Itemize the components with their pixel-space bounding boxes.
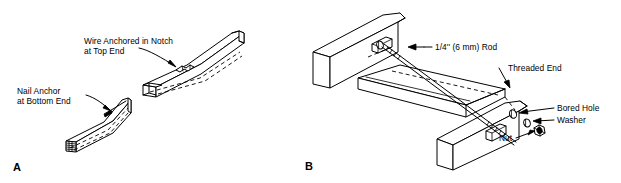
panel-b-drawing: 1/4'' (6 mm) Rod Threaded End Bored Hole…	[305, 13, 600, 172]
leader-arrow-nut	[528, 130, 535, 135]
label-nut: Nut	[499, 133, 513, 143]
label-threaded-end: Threaded End	[508, 63, 562, 73]
lower-board-end-grain	[66, 141, 76, 152]
label-wire-anchored-line1: Wire Anchored in Notch	[84, 36, 173, 46]
leader-arrow-wire-notch	[168, 60, 176, 67]
leader-arrow-nail-anchor	[103, 105, 111, 111]
label-rod: 1/4'' (6 mm) Rod	[435, 42, 497, 52]
panel-a-drawing: Wire Anchored in Notch at Top End Nail A…	[13, 31, 244, 173]
label-bored-hole: Bored Hole	[557, 103, 600, 113]
leader-arrow-washer	[533, 118, 541, 124]
upper-beam-front-face	[313, 52, 330, 88]
panel-letter-b: B	[305, 160, 313, 172]
lower-board-far-end	[128, 98, 131, 113]
label-nail-anchor-line1: Nail Anchor	[17, 86, 61, 96]
center-plank-assembly	[358, 65, 505, 117]
panel-letter-a: A	[13, 161, 21, 173]
technical-illustration: Wire Anchored in Notch at Top End Nail A…	[0, 0, 621, 183]
leader-arrow-threaded-end	[504, 80, 510, 88]
figure-root: Wire Anchored in Notch at Top End Nail A…	[0, 0, 621, 183]
washer-icon	[523, 118, 532, 128]
label-nail-anchor-line2: at Bottom End	[17, 96, 71, 106]
lower-beam-front-face	[437, 139, 453, 170]
label-washer: Washer	[557, 115, 586, 125]
leader-arrow-rod	[408, 44, 416, 50]
lower-board-assembly	[66, 98, 131, 152]
label-wire-anchored-line2: at Top End	[84, 46, 125, 56]
